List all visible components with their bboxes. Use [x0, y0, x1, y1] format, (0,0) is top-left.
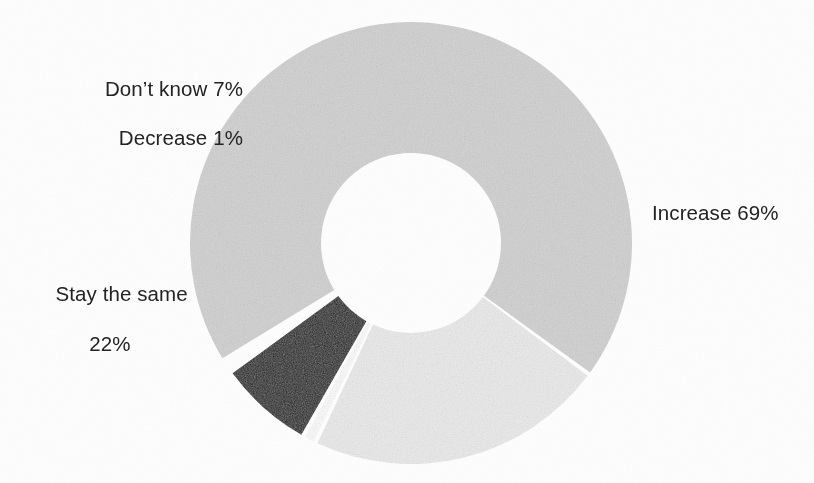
label-stay-the-same: Stay the same 22% — [14, 256, 206, 406]
label-stay-the-same-value: 22% — [14, 331, 206, 356]
label-decrease: Decrease 1% — [0, 125, 243, 150]
donut-chart — [0, 0, 814, 483]
label-increase: Increase 69% — [652, 200, 779, 225]
label-stay-the-same-text: Stay the same — [55, 282, 187, 305]
label-dont-know: Don’t know 7% — [0, 76, 243, 101]
donut-chart-page: Don’t know 7% Decrease 1% Increase 69% S… — [0, 0, 814, 483]
slice-increase[interactable] — [190, 22, 632, 372]
donut-slices — [190, 22, 632, 464]
